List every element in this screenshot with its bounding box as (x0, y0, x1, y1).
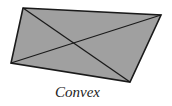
quadrilateral-shape (11, 8, 161, 82)
figure-caption: Convex (0, 84, 155, 101)
